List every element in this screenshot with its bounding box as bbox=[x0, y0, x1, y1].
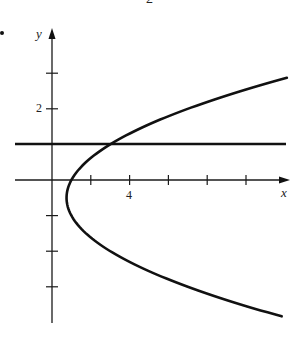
x-axis-label: x bbox=[280, 185, 287, 200]
bullet-icon bbox=[0, 31, 4, 35]
x-tick-label-4: 4 bbox=[126, 188, 132, 202]
y-axis-arrow-icon bbox=[49, 28, 56, 39]
y-axis-label: y bbox=[34, 26, 42, 41]
top-fragment-text: 2 bbox=[146, 0, 153, 6]
y-tick-label-2: 2 bbox=[36, 101, 42, 115]
plot-area: 2 y x 2 4 bbox=[0, 0, 292, 337]
figure: 2 y x 2 4 bbox=[0, 0, 292, 337]
parabola-curve bbox=[67, 78, 287, 317]
x-axis-arrow-icon bbox=[279, 177, 290, 184]
